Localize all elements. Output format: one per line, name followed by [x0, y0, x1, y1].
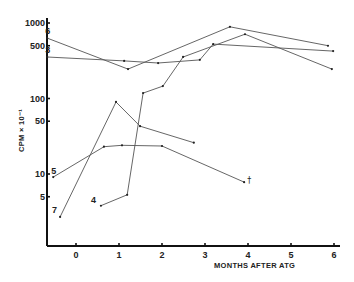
series-line: [47, 44, 333, 63]
data-point: [127, 68, 129, 70]
y-tick-label: 5: [40, 192, 45, 202]
series-4: 4: [91, 33, 333, 207]
x-tick-label: 3: [202, 250, 207, 260]
series-label: 3: [45, 45, 50, 55]
data-point: [243, 181, 245, 183]
series-7: 7: [52, 101, 195, 218]
series-line: [53, 145, 244, 182]
data-point: [59, 216, 61, 218]
x-tick-label: 6: [331, 250, 336, 260]
data-point: [100, 205, 102, 207]
series-label: 5: [51, 166, 56, 176]
data-point: [103, 146, 105, 148]
data-point: [244, 33, 246, 35]
x-tick-label: 5: [288, 250, 293, 260]
x-axis-title: MONTHS AFTER ATG: [214, 261, 295, 270]
series-line: [60, 102, 194, 217]
data-point: [199, 59, 201, 61]
data-point: [126, 194, 128, 196]
y-tick: 5: [40, 192, 50, 202]
series-label: 4: [91, 195, 96, 205]
data-point: [46, 37, 48, 39]
data-point: [212, 43, 214, 45]
data-point: [52, 176, 54, 178]
series-line: [101, 34, 332, 206]
y-tick-label: 50: [35, 116, 45, 126]
y-axis-title: CPM × 10⁻¹: [17, 109, 26, 152]
dagger-annotation: †: [247, 176, 251, 185]
data-point: [161, 145, 163, 147]
x-tick-label: 0: [73, 250, 78, 260]
x-tick-label: 1: [116, 250, 121, 260]
data-point: [182, 56, 184, 58]
data-point: [229, 26, 231, 28]
data-point: [162, 85, 164, 87]
data-point: [193, 142, 195, 144]
series-5: 5: [51, 144, 245, 183]
line-chart: 0123456 510501005001000 63475† MONTHS AF…: [0, 0, 354, 282]
series-label: 6: [45, 26, 50, 36]
series-label: 7: [52, 205, 57, 215]
data-point: [139, 125, 141, 127]
x-tick-label: 2: [159, 250, 164, 260]
data-point: [142, 92, 144, 94]
data-point: [327, 45, 329, 47]
y-tick-label: 10: [35, 169, 45, 179]
data-point: [123, 60, 125, 62]
y-tick-label: 500: [30, 41, 45, 51]
data-point: [332, 50, 334, 52]
y-tick-label: 1000: [25, 18, 45, 28]
y-tick-label: 100: [30, 94, 45, 104]
data-point: [115, 101, 117, 103]
data-point: [121, 144, 123, 146]
data-point: [157, 62, 159, 64]
data-point: [331, 68, 333, 70]
series-layer: 63475†: [45, 26, 334, 218]
x-tick-label: 4: [245, 250, 250, 260]
data-point: [46, 56, 48, 58]
